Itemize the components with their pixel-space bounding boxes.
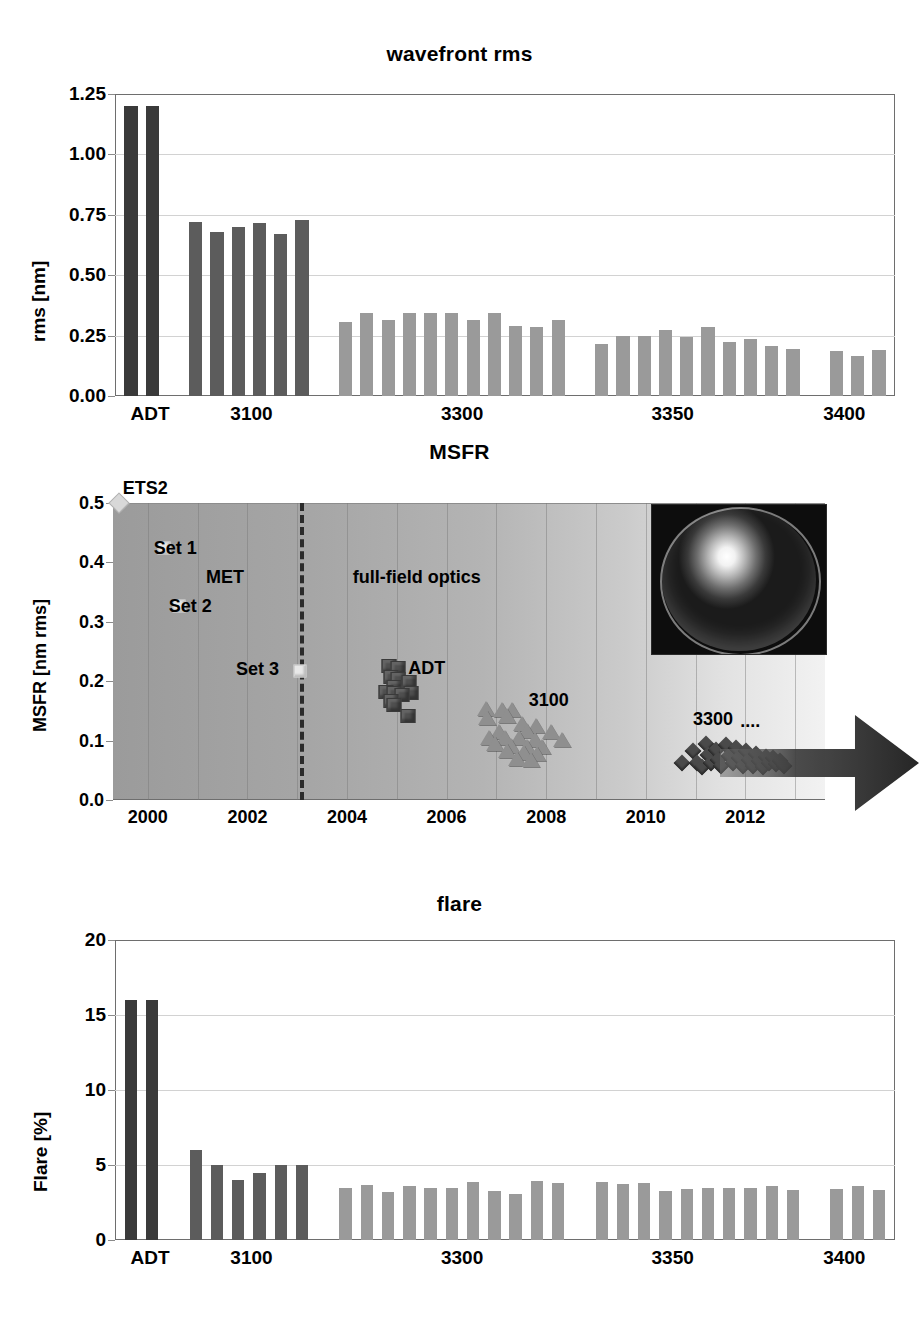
bar (467, 320, 480, 396)
bar (744, 339, 757, 396)
y-tick-mark (108, 275, 115, 276)
bar (382, 320, 395, 396)
x-tick-label: 3350 (652, 1247, 694, 1269)
plot-area-flare: 05101520ADT3100330033503400 (115, 940, 895, 1240)
annotation-label: 3300 (693, 708, 733, 729)
y-tick-label: 0.25 (69, 325, 106, 347)
bar (701, 327, 714, 396)
bar (596, 1182, 608, 1240)
bar (723, 1188, 735, 1240)
annotation-label: .... (740, 710, 760, 731)
bar (872, 350, 885, 396)
y-tick-label: 1.25 (69, 83, 106, 105)
bar (830, 1189, 842, 1240)
figure-root: wavefront rms rms [nm] 0.000.250.500.751… (0, 0, 919, 1319)
y-tick-label: 20 (85, 929, 106, 951)
bar (403, 1186, 415, 1240)
bar (744, 1188, 756, 1240)
annotation-label: Set 3 (236, 659, 279, 680)
y-tick-label: 5 (95, 1154, 106, 1176)
data-point-3100 (478, 710, 496, 725)
y-tick-label: 0.2 (79, 671, 104, 692)
bar (552, 320, 565, 396)
inset-optic-photo (651, 504, 827, 655)
gridline (115, 215, 895, 216)
y-tick-mark (108, 396, 115, 397)
x-tick-label: 3400 (823, 1247, 865, 1269)
bar (638, 336, 651, 396)
bar (232, 227, 245, 396)
x-tick-label: 2006 (427, 807, 467, 828)
x-tick-label: 3400 (823, 403, 865, 425)
y-tick-mark (108, 94, 115, 95)
annotation-label: full-field optics (353, 567, 481, 588)
y-tick-mark (108, 1165, 115, 1166)
bar (210, 232, 223, 396)
gridline (115, 1015, 895, 1016)
bar (253, 1173, 265, 1241)
annotation-label: ADT (408, 658, 445, 679)
bar (146, 1000, 158, 1240)
bar (339, 1188, 351, 1241)
annotation-label: ETS2 (123, 478, 168, 499)
y-axis-label-wavefront: rms [nm] (28, 261, 50, 342)
x-tick-label: 2010 (626, 807, 666, 828)
plot-area-wavefront: 0.000.250.500.751.001.25ADT3100330033503… (115, 94, 895, 396)
panel-wavefront-rms: wavefront rms rms [nm] 0.000.250.500.751… (0, 42, 919, 422)
bar (509, 1194, 521, 1241)
bar (190, 1150, 202, 1240)
y-tick-mark (108, 154, 115, 155)
y-axis-label-flare: Flare [%] (30, 1112, 52, 1192)
data-point-3100 (522, 752, 540, 767)
y-tick-mark (108, 1090, 115, 1091)
gridline (115, 154, 895, 155)
separator-dashed-line (300, 503, 304, 800)
bar (509, 326, 522, 396)
x-tick-label: 3300 (441, 1247, 483, 1269)
bar (873, 1190, 885, 1240)
y-tick-label: 10 (85, 1079, 106, 1101)
bar (295, 220, 308, 396)
gridline (115, 1090, 895, 1091)
x-tick-label: 2004 (327, 807, 367, 828)
bar (851, 356, 864, 396)
annotation-label: MET (206, 567, 244, 588)
y-tick-mark (106, 562, 113, 563)
bar (424, 1188, 436, 1240)
bar (124, 106, 137, 396)
gridline-vertical (397, 503, 398, 800)
bar (189, 222, 202, 396)
bar (638, 1183, 650, 1240)
gridline-vertical (646, 503, 647, 800)
bar (424, 313, 437, 396)
chart-title-msfr: MSFR (0, 440, 919, 464)
bar (125, 1000, 137, 1240)
chart-title-wavefront: wavefront rms (0, 42, 919, 66)
gridline-vertical (347, 503, 348, 800)
y-tick-mark (106, 681, 113, 682)
y-tick-label: 0 (95, 1229, 106, 1251)
gridline-vertical (596, 503, 597, 800)
bar (852, 1186, 864, 1240)
bar (681, 1189, 693, 1240)
y-tick-label: 1.00 (69, 143, 106, 165)
gridline-vertical (546, 503, 547, 800)
bar (766, 1186, 778, 1240)
y-tick-label: 15 (85, 1004, 106, 1026)
y-axis-label-msfr: MSFR [nm rms] (30, 599, 51, 732)
y-tick-mark (108, 336, 115, 337)
data-point-adt (400, 709, 415, 723)
y-tick-mark (108, 1015, 115, 1016)
bar (659, 330, 672, 396)
bar (232, 1180, 244, 1240)
y-tick-mark (106, 741, 113, 742)
y-tick-label: 0.3 (79, 611, 104, 632)
y-tick-label: 0.5 (79, 493, 104, 514)
bar (360, 313, 373, 396)
y-tick-mark (106, 800, 113, 801)
gridline-vertical (148, 503, 149, 800)
y-tick-mark (106, 622, 113, 623)
optic-rim (660, 507, 821, 655)
bar (786, 349, 799, 396)
gridline (115, 1165, 895, 1166)
